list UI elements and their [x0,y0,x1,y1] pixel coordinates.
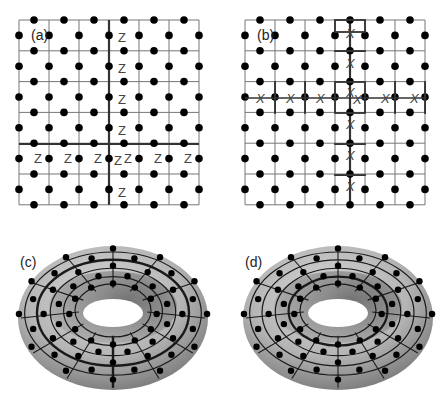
qubit-dot [335,376,341,382]
qubit-dot [180,78,188,86]
qubit-dot [374,283,380,289]
qubit-dot [132,337,138,343]
qubit-dot [286,16,294,24]
qubit-dot [110,376,116,382]
qubit-dot [376,78,384,86]
qubit-dot [346,170,354,178]
qubit-dot [395,335,401,341]
qubit-dot [120,109,128,117]
qubit-dot [316,170,324,178]
qubit-dot [295,283,301,289]
qubit-dot [406,78,414,86]
qubit-dot [110,359,116,365]
qubit-dot [144,353,150,359]
qubit-dot [45,124,53,132]
qubit-dot [180,201,188,209]
qubit-dot [331,186,339,194]
qubit-dot [297,296,303,302]
qubit-dot [241,62,249,70]
qubit-dot [165,155,173,163]
qubit-dot [288,368,294,374]
qubit-dot [120,16,128,24]
qubit-dot [150,109,158,117]
qubit-dot [105,32,113,40]
qubit-dot [75,269,81,275]
qubit-dot [406,16,414,24]
qubit-dot [241,311,247,317]
qubit-dot [393,270,399,276]
qubit-dot [131,255,137,261]
qubit-dot [170,335,176,341]
z-operator: Z [118,123,126,138]
torus-hole [308,299,368,327]
z-operator: Z [184,151,192,166]
qubit-dot [331,155,339,163]
qubit-dot [110,262,116,268]
qubit-dot [45,155,53,163]
qubit-dot [300,269,306,275]
qubit-dot [256,47,264,55]
qubit-dot [241,155,249,163]
panel-label-c: (c) [20,254,36,270]
qubit-dot [301,32,309,40]
qubit-dot [373,326,379,332]
qubit-dot [300,353,306,359]
qubit-dot [90,47,98,55]
z-operator: Z [118,30,126,45]
qubit-dot [421,186,429,194]
qubit-dot [369,269,375,275]
qubit-dot [66,311,72,317]
qubit-dot [165,32,173,40]
qubit-dot [356,366,362,372]
qubit-dot [320,273,326,279]
qubit-dot [105,62,113,70]
qubit-dot [165,124,173,132]
qubit-dot [179,311,185,317]
qubit-dot [135,186,143,194]
qubit-dot [90,170,98,178]
qubit-dot [276,270,282,276]
qubit-dot [30,296,36,302]
qubit-dot [150,170,158,178]
qubit-dot [120,139,128,147]
qubit-dot [286,170,294,178]
qubit-dot [63,254,69,260]
qubit-dot [72,326,78,332]
qubit-dot [30,47,38,55]
qubit-dot [60,170,68,178]
x-operator: X [409,91,420,106]
qubit-dot [135,155,143,163]
qubit-dot [349,273,355,279]
qubit-dot [331,124,339,132]
qubit-dot [90,201,98,209]
qubit-dot [391,155,399,163]
qubit-dot [195,124,203,132]
qubit-dot [281,301,287,307]
qubit-dot [275,287,281,293]
qubit-dot [376,16,384,24]
qubit-dot [60,201,68,209]
qubit-dot [135,32,143,40]
qubit-dot [313,337,319,343]
qubit-dot [265,311,271,317]
qubit-dot [271,62,279,70]
qubit-dot [150,47,158,55]
qubit-dot [320,349,326,355]
qubit-dot [45,186,53,194]
qubit-dot [168,352,174,358]
qubit-dot [191,278,197,284]
qubit-dot [421,62,429,70]
qubit-dot [56,321,62,327]
qubit-dot [165,186,173,194]
qubit-dot [15,155,23,163]
qubit-dot [391,32,399,40]
qubit-dot [149,338,155,344]
qubit-dot [369,353,375,359]
qubit-dot [301,186,309,194]
qubit-dot [144,269,150,275]
qubit-dot [241,93,249,101]
qubit-dot [271,124,279,132]
qubit-dot [95,349,101,355]
qubit-dot [168,270,174,276]
qubit-dot [376,201,384,209]
